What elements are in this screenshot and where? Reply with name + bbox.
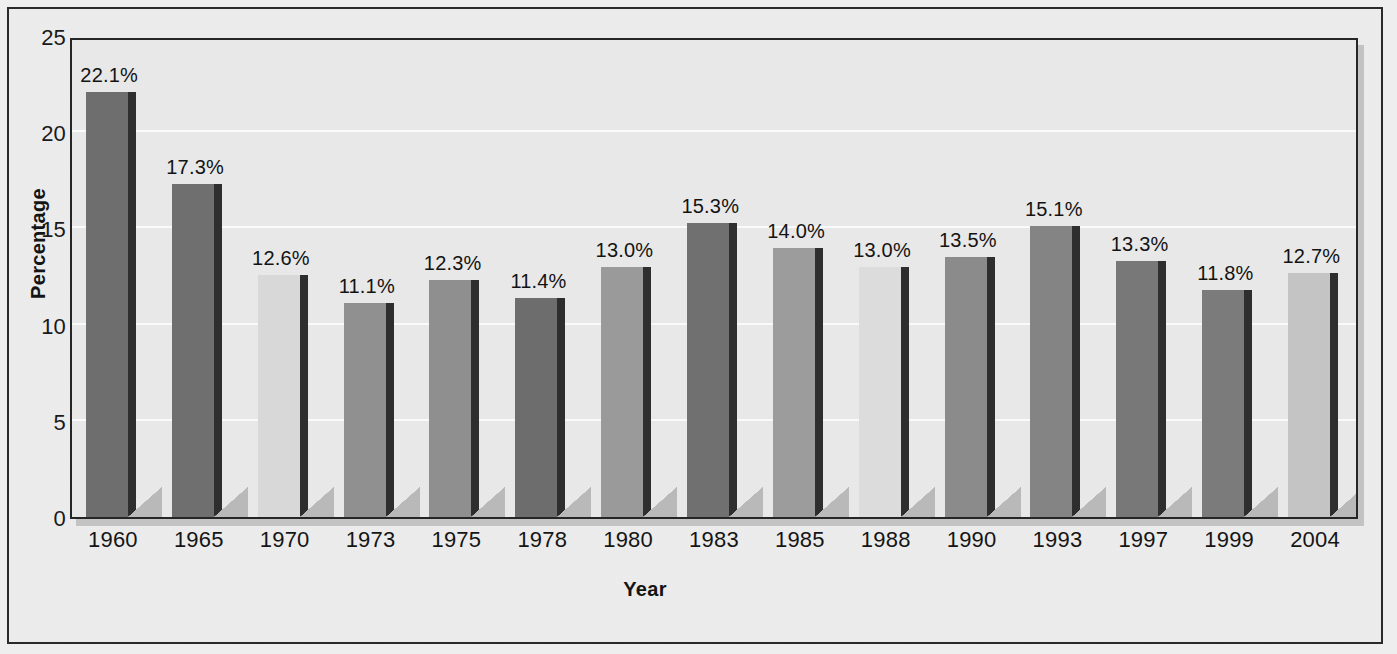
bar-slot: 22.1%: [72, 40, 158, 517]
y-axis-title: Percentage: [27, 144, 50, 344]
bar-face: [1116, 261, 1158, 517]
x-tick-label: 2004: [1272, 527, 1358, 553]
bar-side-face: [300, 275, 308, 517]
x-tick-label: 1973: [328, 527, 414, 553]
bar-drop-shadow: [815, 487, 849, 517]
y-tick-label: 25: [20, 25, 66, 51]
bar[interactable]: 15.1%: [1030, 226, 1072, 517]
bar-face: [859, 267, 901, 517]
bar-side-face: [1158, 261, 1166, 517]
bar-face: [515, 298, 557, 517]
bar-slot: 15.1%: [1017, 40, 1103, 517]
bar[interactable]: 12.3%: [429, 280, 471, 517]
bar[interactable]: 11.4%: [515, 298, 557, 517]
bar-drop-shadow: [729, 487, 763, 517]
bar[interactable]: 12.7%: [1288, 273, 1330, 517]
bar-side-face: [643, 267, 651, 517]
bar-side-face: [1244, 290, 1252, 517]
bar[interactable]: 12.6%: [258, 275, 300, 517]
bar-drop-shadow: [1158, 487, 1192, 517]
bar-side-face: [471, 280, 479, 517]
bar-side-face: [815, 248, 823, 517]
bar-slot: 13.0%: [845, 40, 931, 517]
bar-side-face: [557, 298, 565, 517]
bar-slot: 11.8%: [1188, 40, 1274, 517]
bar[interactable]: 13.0%: [601, 267, 643, 517]
bar-side-face: [987, 257, 995, 517]
bar[interactable]: 13.5%: [945, 257, 987, 517]
x-tick-label: 1975: [413, 527, 499, 553]
bar-face: [86, 92, 128, 517]
bar[interactable]: 17.3%: [172, 184, 214, 517]
x-tick-label: 1997: [1100, 527, 1186, 553]
bar-drop-shadow: [901, 487, 935, 517]
bar-face: [945, 257, 987, 517]
bar-face: [429, 280, 471, 517]
bar-face: [172, 184, 214, 517]
bar-slot: 13.5%: [931, 40, 1017, 517]
bar-face: [1202, 290, 1244, 517]
bar-value-label: 12.6%: [252, 247, 310, 270]
y-tick-label: 5: [20, 410, 66, 436]
bar-value-label: 13.0%: [596, 239, 654, 262]
bar-drop-shadow: [1072, 487, 1106, 517]
bar-side-face: [128, 92, 136, 517]
bar-slot: 11.1%: [330, 40, 416, 517]
bar-side-face: [729, 223, 737, 517]
bar-side-face: [901, 267, 909, 517]
bar-value-label: 15.3%: [681, 195, 739, 218]
bar-value-label: 13.5%: [939, 229, 997, 252]
bar-value-label: 11.4%: [510, 270, 566, 293]
bar-value-label: 11.8%: [1197, 262, 1253, 285]
x-tick-label: 1980: [585, 527, 671, 553]
bar[interactable]: 22.1%: [86, 92, 128, 517]
bar[interactable]: 14.0%: [773, 248, 815, 517]
bar-face: [1030, 226, 1072, 517]
bar-value-label: 15.1%: [1025, 198, 1083, 221]
bar-slot: 12.3%: [415, 40, 501, 517]
bar-side-face: [1330, 273, 1338, 517]
bar-value-label: 13.0%: [853, 239, 911, 262]
bar-value-label: 14.0%: [767, 220, 825, 243]
bar[interactable]: 11.8%: [1202, 290, 1244, 517]
bar-face: [344, 303, 386, 517]
x-tick-label: 1988: [843, 527, 929, 553]
bar-value-label: 17.3%: [166, 156, 224, 179]
x-tick-label: 1993: [1015, 527, 1101, 553]
bar[interactable]: 15.3%: [687, 223, 729, 517]
bar-drop-shadow: [1244, 487, 1278, 517]
bar-side-face: [386, 303, 394, 517]
x-tick-label: 1965: [156, 527, 242, 553]
x-tick-label: 1978: [499, 527, 585, 553]
bar-drop-shadow: [300, 487, 334, 517]
bar-drop-shadow: [987, 487, 1021, 517]
chart-page: 0510152025 Percentage 22.1%17.3%12.6%11.…: [0, 0, 1397, 654]
bar-side-face: [1072, 226, 1080, 517]
x-tick-label: 1970: [242, 527, 328, 553]
bar[interactable]: 11.1%: [344, 303, 386, 517]
plot-frame: 22.1%17.3%12.6%11.1%12.3%11.4%13.0%15.3%…: [70, 38, 1358, 519]
bar-slot: 14.0%: [759, 40, 845, 517]
bar-face: [687, 223, 729, 517]
bar-value-label: 22.1%: [80, 64, 138, 87]
bar-value-label: 12.7%: [1282, 245, 1340, 268]
bar[interactable]: 13.0%: [859, 267, 901, 517]
bar-face: [1288, 273, 1330, 517]
x-axis-title: Year: [0, 578, 1290, 601]
bar[interactable]: 13.3%: [1116, 261, 1158, 517]
x-tick-label: 1990: [929, 527, 1015, 553]
bar-drop-shadow: [128, 487, 162, 517]
bar-drop-shadow: [557, 487, 591, 517]
bar-slot: 12.7%: [1274, 40, 1358, 517]
bar-slot: 15.3%: [673, 40, 759, 517]
x-axis-ticks: 1960196519701973197519781980198319851988…: [70, 527, 1358, 567]
y-tick-label: 0: [20, 506, 66, 532]
bar-value-label: 11.1%: [339, 275, 395, 298]
x-tick-label: 1999: [1186, 527, 1272, 553]
bar-drop-shadow: [471, 487, 505, 517]
bar-slot: 17.3%: [158, 40, 244, 517]
bar-value-label: 12.3%: [424, 252, 482, 275]
bar-face: [258, 275, 300, 517]
bar-slot: 13.3%: [1102, 40, 1188, 517]
bar-drop-shadow: [643, 487, 677, 517]
